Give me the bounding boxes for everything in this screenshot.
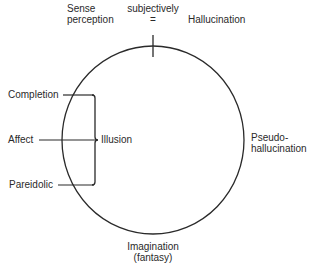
affect-label: Affect	[8, 134, 33, 145]
pseudo-hallucination-line2: hallucination	[251, 143, 307, 154]
imagination-line2: (fantasy)	[118, 252, 188, 263]
sense-perception-label: Sense perception	[67, 3, 114, 25]
illusion-label: Illusion	[101, 134, 132, 145]
imagination-line1: Imagination	[118, 241, 188, 252]
sense-perception-line2: perception	[67, 14, 114, 25]
equals-sign: =	[122, 14, 184, 25]
pseudo-hallucination-line1: Pseudo-	[251, 132, 307, 143]
subjectively-label: subjectively =	[122, 3, 184, 25]
pareidolic-label: Pareidolic	[9, 179, 53, 190]
imagination-label: Imagination (fantasy)	[118, 241, 188, 263]
pseudo-hallucination-label: Pseudo- hallucination	[251, 132, 307, 154]
sense-perception-line1: Sense	[67, 3, 114, 14]
completion-label: Completion	[8, 89, 59, 100]
hallucination-label: Hallucination	[188, 14, 245, 25]
subjectively-text: subjectively	[122, 3, 184, 14]
